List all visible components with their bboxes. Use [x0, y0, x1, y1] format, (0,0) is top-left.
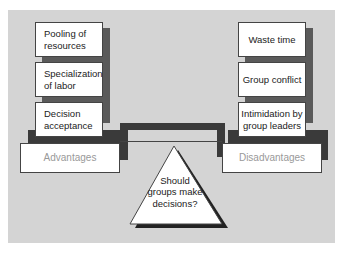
fulcrum-line1: Should [140, 175, 210, 186]
fulcrum-triangle [0, 0, 345, 253]
fulcrum-question: Should groups make decisions? [140, 175, 210, 209]
fulcrum-line3: decisions? [140, 198, 210, 209]
fulcrum-line2: groups make [140, 186, 210, 197]
